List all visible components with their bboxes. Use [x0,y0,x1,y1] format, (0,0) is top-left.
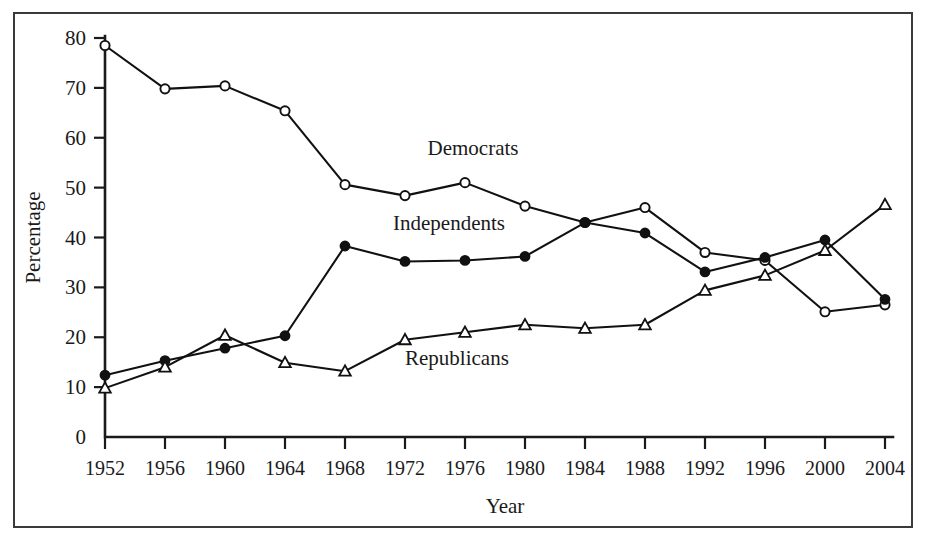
series-label-democrats: Democrats [428,136,519,160]
data-point [460,256,469,265]
x-axis-tick-label: 1964 [265,457,305,479]
y-axis-tick-label: 20 [65,325,86,349]
data-point [400,257,409,266]
data-point [580,218,589,227]
data-point [340,180,349,189]
data-point [820,307,829,316]
x-axis-title: Year [486,494,525,518]
y-axis-tick-label: 0 [76,425,87,449]
data-point [520,252,529,261]
data-point [219,329,231,339]
data-point [640,228,649,237]
data-point [700,267,709,276]
x-axis-tick-label: 1956 [145,457,185,479]
y-axis-tick-label: 10 [65,375,86,399]
x-axis-tick-label: 1960 [205,457,245,479]
data-point [100,41,109,50]
y-axis-tick-label: 60 [65,126,86,150]
series-label-independents: Independents [393,211,505,235]
data-point [279,357,291,367]
x-axis-tick-label: 1952 [85,457,125,479]
x-axis-tick-label: 1980 [505,457,545,479]
y-axis-title: Percentage [21,191,45,283]
data-point [220,344,229,353]
data-point [760,253,769,262]
x-axis-tick-label: 1984 [565,457,605,479]
x-axis-tick-label: 1976 [445,457,485,479]
data-point [280,331,289,340]
data-point [160,84,169,93]
data-point [280,106,289,115]
x-axis-tick-label: 2000 [805,457,845,479]
figure-container: 01020304050607080Percentage1952195619601… [0,0,929,541]
y-axis-tick-label: 50 [65,176,86,200]
x-axis-tick-label: 1968 [325,457,365,479]
line-chart: 01020304050607080Percentage1952195619601… [0,0,929,541]
data-point [520,201,529,210]
y-axis-tick-label: 80 [65,26,86,50]
y-axis-tick-label: 30 [65,275,86,299]
x-axis-tick-label: 2004 [865,457,905,479]
y-axis-tick-label: 40 [65,226,86,250]
series-democrats [100,41,889,317]
y-axis-tick-label: 70 [65,76,86,100]
data-point [100,371,109,380]
x-axis-tick-label: 1992 [685,457,725,479]
data-point [880,295,889,304]
x-axis-tick-label: 1988 [625,457,665,479]
data-point [400,191,409,200]
x-axis-tick-label: 1996 [745,457,785,479]
x-axis-tick-label: 1972 [385,457,425,479]
data-point [220,81,229,90]
data-point [640,203,649,212]
data-point [460,178,469,187]
chart-axes [105,36,893,437]
data-point [340,241,349,250]
data-point [700,248,709,257]
data-point [879,199,891,209]
series-label-republicans: Republicans [405,346,509,370]
